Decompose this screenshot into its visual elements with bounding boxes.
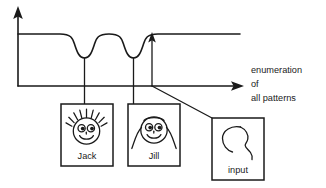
horizontal-axis [18, 81, 244, 91]
axis-caption-line-2: of [251, 79, 259, 89]
jack-box[interactable]: Jack [61, 104, 113, 166]
axis-caption-line-1: enumeration [251, 65, 302, 75]
jack-right-pupil-icon [90, 127, 94, 131]
input-label: input [228, 165, 248, 175]
input-box[interactable]: input [212, 118, 264, 180]
vertical-axis [13, 6, 23, 86]
diagram-canvas: enumeration of all patterns [0, 0, 326, 188]
jill-left-pupil-icon [148, 126, 152, 130]
jack-label: Jack [78, 151, 97, 161]
jill-label: Jill [149, 151, 160, 161]
axis-caption-line-3: all patterns [251, 93, 296, 103]
jack-left-pupil-icon [81, 127, 85, 131]
input-uphill-arrow [148, 32, 156, 86]
jill-box[interactable]: Jill [128, 104, 180, 166]
attractor-landscape-figure: enumeration of all patterns [0, 0, 326, 188]
jill-right-pupil-icon [158, 126, 162, 130]
energy-curve [18, 34, 240, 58]
axis-caption-group: enumeration of all patterns [251, 65, 302, 103]
